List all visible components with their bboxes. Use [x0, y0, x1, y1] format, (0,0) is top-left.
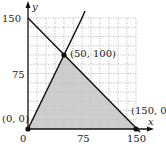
y-axis-label: y [31, 1, 38, 12]
tick-x0: 0 [20, 133, 26, 144]
vertex-150-0 [133, 126, 138, 131]
tick-y150: 150 [2, 13, 21, 24]
tick-y75: 75 [12, 69, 25, 80]
line-y-2x-ext [82, 11, 85, 18]
label-vertex: (50, 100) [70, 48, 116, 59]
x-axis-label: x [148, 116, 154, 127]
label-xint: (150, 0) [131, 105, 166, 116]
vertex-origin [25, 126, 30, 131]
y-axis-arrow-icon [26, 1, 31, 8]
tick-x75: 75 [77, 133, 90, 144]
tick-x150: 150 [127, 133, 146, 144]
x-axis-arrow-icon [147, 127, 154, 132]
feasible-region-chart: y x 150 75 0 75 150 (0, 0) (50, 100) (15… [0, 0, 166, 153]
label-origin: (0, 0) [2, 113, 29, 124]
vertex-50-100 [61, 52, 66, 57]
